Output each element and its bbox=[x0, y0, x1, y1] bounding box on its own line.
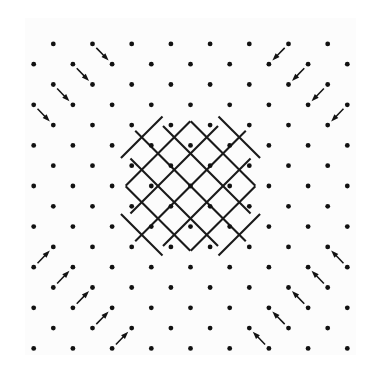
lattice-dot bbox=[345, 265, 350, 270]
lattice-dot bbox=[90, 204, 95, 209]
lattice-dot bbox=[286, 82, 291, 87]
lattice-dot bbox=[286, 123, 291, 128]
lattice-dot bbox=[149, 346, 154, 351]
lattice-dot bbox=[71, 102, 76, 107]
lattice-dot bbox=[31, 305, 36, 310]
lattice-dot bbox=[51, 82, 56, 87]
lattice-dot bbox=[71, 143, 76, 148]
lattice-dot bbox=[51, 204, 56, 209]
lattice-dot bbox=[208, 204, 213, 209]
lattice-dot bbox=[227, 305, 232, 310]
lattice-dot bbox=[188, 265, 193, 270]
lattice-dot bbox=[286, 42, 291, 47]
lattice-dot bbox=[286, 163, 291, 168]
lattice-dot bbox=[31, 143, 36, 148]
lattice-dot bbox=[325, 123, 330, 128]
lattice-dot bbox=[345, 184, 350, 189]
lattice-dot bbox=[110, 224, 115, 229]
lattice-dot bbox=[31, 62, 36, 67]
lattice-dot bbox=[110, 102, 115, 107]
lattice-dot bbox=[345, 305, 350, 310]
lattice-dot bbox=[247, 285, 252, 290]
lattice-dot bbox=[325, 204, 330, 209]
lattice-dot bbox=[51, 42, 56, 47]
lattice-dot bbox=[208, 82, 213, 87]
lattice-dot bbox=[169, 42, 174, 47]
lattice-dot bbox=[149, 184, 154, 189]
lattice-dot bbox=[51, 285, 56, 290]
lattice-dot bbox=[345, 143, 350, 148]
lattice-dot bbox=[345, 102, 350, 107]
lattice-dot bbox=[129, 285, 134, 290]
lattice-dot bbox=[90, 245, 95, 250]
lattice-dot bbox=[110, 305, 115, 310]
lattice-dot bbox=[227, 102, 232, 107]
lattice-dot bbox=[90, 82, 95, 87]
lattice-dot bbox=[267, 305, 272, 310]
lattice-dot bbox=[267, 102, 272, 107]
lattice-dot bbox=[31, 346, 36, 351]
lattice-dot bbox=[325, 42, 330, 47]
lattice-dot bbox=[345, 62, 350, 67]
lattice-dot bbox=[208, 42, 213, 47]
lattice-dot bbox=[129, 123, 134, 128]
lattice-dot bbox=[90, 123, 95, 128]
lattice-dot bbox=[325, 163, 330, 168]
lattice-dot bbox=[208, 285, 213, 290]
lattice-dot bbox=[129, 163, 134, 168]
lattice-dot bbox=[267, 184, 272, 189]
figure-container bbox=[0, 0, 381, 373]
lattice-dot bbox=[71, 346, 76, 351]
lattice-dot bbox=[71, 184, 76, 189]
lattice-dot bbox=[169, 245, 174, 250]
lattice-dot bbox=[247, 204, 252, 209]
lattice-dot bbox=[129, 82, 134, 87]
lattice-dot bbox=[90, 326, 95, 331]
lattice-dot bbox=[227, 62, 232, 67]
lattice-dot bbox=[227, 224, 232, 229]
lattice-dot bbox=[325, 326, 330, 331]
lattice-dot bbox=[208, 245, 213, 250]
lattice-dot bbox=[286, 204, 291, 209]
lattice-dot bbox=[90, 285, 95, 290]
lattice-dot bbox=[208, 326, 213, 331]
lattice-dot bbox=[247, 42, 252, 47]
lattice-dot bbox=[51, 326, 56, 331]
lattice-dot bbox=[188, 184, 193, 189]
lattice-dot bbox=[188, 346, 193, 351]
lattice-dot bbox=[306, 346, 311, 351]
lattice-dot bbox=[90, 42, 95, 47]
lattice-dot bbox=[227, 143, 232, 148]
lattice-dot bbox=[227, 265, 232, 270]
lattice-dot bbox=[71, 265, 76, 270]
lattice-dot bbox=[31, 184, 36, 189]
lattice-dot bbox=[247, 326, 252, 331]
lattice-dot bbox=[110, 143, 115, 148]
lattice-dot bbox=[325, 82, 330, 87]
lattice-dot bbox=[31, 265, 36, 270]
lattice-dot bbox=[110, 346, 115, 351]
lattice-dot bbox=[306, 265, 311, 270]
lattice-dot bbox=[90, 163, 95, 168]
lattice-dot bbox=[51, 245, 56, 250]
lattice-dot bbox=[31, 102, 36, 107]
lattice-dot bbox=[149, 102, 154, 107]
lattice-dot bbox=[306, 224, 311, 229]
lattice-dot bbox=[169, 82, 174, 87]
lattice-dot bbox=[267, 224, 272, 229]
lattice-dot bbox=[149, 265, 154, 270]
lattice-dot bbox=[149, 62, 154, 67]
lattice-dot bbox=[306, 143, 311, 148]
lattice-dot bbox=[286, 245, 291, 250]
lattice-dot bbox=[227, 346, 232, 351]
lattice-dot bbox=[188, 143, 193, 148]
lattice-dot bbox=[306, 184, 311, 189]
lattice-dot bbox=[188, 305, 193, 310]
lattice-dot bbox=[71, 62, 76, 67]
lattice-dot bbox=[71, 305, 76, 310]
lattice-dot bbox=[286, 326, 291, 331]
lattice-dot bbox=[227, 184, 232, 189]
lattice-dot bbox=[345, 346, 350, 351]
lattice-diagram-svg bbox=[0, 0, 381, 373]
lattice-dot bbox=[267, 143, 272, 148]
